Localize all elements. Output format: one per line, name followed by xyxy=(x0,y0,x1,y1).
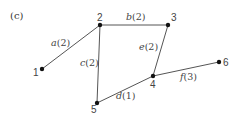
edge-label-a: a(2) xyxy=(51,37,70,48)
node-6-dot xyxy=(217,60,221,64)
node-6-label: 6 xyxy=(223,57,229,68)
edges-group: a(2)b(2)c(2)e(2)d(1)f(3) xyxy=(42,11,219,103)
node-4-label: 4 xyxy=(150,79,156,90)
node-5-label: 5 xyxy=(91,104,97,115)
node-3-dot xyxy=(166,23,170,27)
edge-label-e: e(2) xyxy=(139,41,158,52)
node-3-label: 3 xyxy=(171,12,177,23)
edge-label-f: f(3) xyxy=(179,71,197,82)
node-2-dot xyxy=(98,23,102,27)
node-4-dot xyxy=(151,74,155,78)
node-1-label: 1 xyxy=(33,67,39,78)
node-2-label: 2 xyxy=(97,12,103,23)
weighted-graph-diagram: (c) a(2)b(2)c(2)e(2)d(1)f(3) 123456 xyxy=(0,0,242,125)
edge-label-c: c(2) xyxy=(80,57,99,68)
node-1-dot xyxy=(40,67,44,71)
edge-label-b: b(2) xyxy=(126,11,146,22)
edge-label-d: d(1) xyxy=(116,90,136,101)
panel-label: (c) xyxy=(10,10,24,21)
